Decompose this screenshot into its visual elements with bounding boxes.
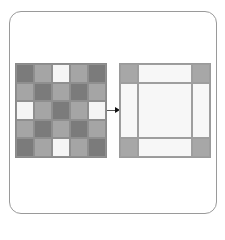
grid-cell-medium: [70, 64, 88, 83]
grid-cell-dark: [16, 138, 34, 157]
grid-cell-medium: [88, 83, 106, 102]
grid-cell-medium: [88, 120, 106, 139]
grid-cell-medium: [70, 101, 88, 120]
grid-cell-medium: [34, 101, 52, 120]
grid-cell-fill: [138, 138, 192, 157]
grid-cell-corner: [192, 138, 210, 157]
grid-cell-fill: [192, 83, 210, 138]
grid-cell-dark: [16, 64, 34, 83]
grid-cell-corner: [120, 64, 138, 83]
grid-cell-medium: [70, 138, 88, 157]
grid-cell-dark: [34, 83, 52, 102]
grid-cell-dark: [88, 64, 106, 83]
grid-cell-corner: [120, 138, 138, 157]
grid-cell-medium: [52, 120, 70, 139]
grid-cell-dark: [70, 83, 88, 102]
grid-cell-white: [88, 101, 106, 120]
input-grid-5x5: [15, 63, 107, 158]
grid-cell-medium: [16, 83, 34, 102]
output-grid-3x3: [119, 63, 211, 158]
grid-cell-medium: [16, 120, 34, 139]
grid-cell-dark: [88, 138, 106, 157]
grid-cell-medium: [52, 83, 70, 102]
grid-cell-dark: [70, 120, 88, 139]
grid-cell-fill: [120, 83, 138, 138]
grid-cell-dark: [34, 120, 52, 139]
grid-cell-corner: [192, 64, 210, 83]
grid-cell-dark: [52, 101, 70, 120]
grid-cell-fill: [138, 64, 192, 83]
grid-cell-medium: [34, 64, 52, 83]
grid-cell-white: [52, 138, 70, 157]
grid-cell-white: [52, 64, 70, 83]
grid-cell-fill: [138, 83, 192, 138]
grid-cell-white: [16, 101, 34, 120]
grid-cell-medium: [34, 138, 52, 157]
